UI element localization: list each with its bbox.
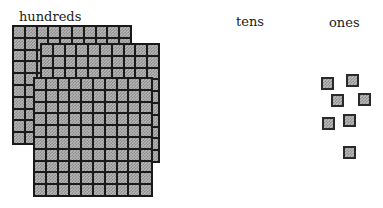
- flat-cell: [59, 103, 69, 113]
- flat-cell: [129, 114, 139, 124]
- flat-cell: [35, 138, 45, 148]
- flat-cell: [129, 103, 139, 113]
- flat-cell: [14, 39, 24, 49]
- flat-cell: [129, 162, 139, 172]
- flat-cell: [35, 162, 45, 172]
- flat-cell: [82, 126, 92, 136]
- flat-cell: [35, 103, 45, 113]
- flat-cell: [70, 91, 80, 101]
- flat-cell: [70, 114, 80, 124]
- flat-cell: [148, 57, 158, 67]
- unit-cube: [331, 94, 344, 107]
- flat-cell: [35, 150, 45, 160]
- flat-cell: [94, 150, 104, 160]
- flat-cell: [141, 126, 151, 136]
- flat-cell: [59, 126, 69, 136]
- flat-cell: [14, 27, 24, 37]
- flat-cell: [85, 27, 95, 37]
- flat-cell: [61, 27, 71, 37]
- flat-cell: [106, 91, 116, 101]
- flat-cell: [70, 103, 80, 113]
- flat-cell: [70, 138, 80, 148]
- flat-cell: [141, 138, 151, 148]
- flat-cell: [66, 45, 76, 55]
- flat-cell: [70, 126, 80, 136]
- flat-cell: [82, 103, 92, 113]
- flat-cell: [38, 27, 48, 37]
- flat-cell: [141, 150, 151, 160]
- flat-cell: [26, 39, 36, 49]
- flat-cell: [118, 150, 128, 160]
- flat-cell: [141, 114, 151, 124]
- flat-cell: [106, 114, 116, 124]
- hundred-flat: [33, 77, 153, 197]
- flat-cell: [47, 185, 57, 195]
- flat-cell: [108, 27, 118, 37]
- flat-cell: [141, 79, 151, 89]
- flat-cell: [129, 126, 139, 136]
- flat-cell: [118, 138, 128, 148]
- flat-cell: [59, 114, 69, 124]
- flat-cell: [59, 162, 69, 172]
- flat-cell: [47, 79, 57, 89]
- flat-cell: [118, 185, 128, 195]
- flat-cell: [42, 45, 52, 55]
- flat-cell: [47, 103, 57, 113]
- flat-cell: [113, 45, 123, 55]
- flat-cell: [106, 173, 116, 183]
- flat-cell: [14, 74, 24, 84]
- flat-cell: [94, 114, 104, 124]
- flat-cell: [106, 185, 116, 195]
- unit-cube: [343, 146, 356, 159]
- flat-cell: [82, 173, 92, 183]
- flat-cell: [47, 114, 57, 124]
- flat-cell: [47, 91, 57, 101]
- flat-cell: [47, 126, 57, 136]
- flat-cell: [82, 91, 92, 101]
- flat-cell: [35, 185, 45, 195]
- flat-cell: [129, 91, 139, 101]
- flat-cell: [47, 138, 57, 148]
- flat-cell: [129, 173, 139, 183]
- flat-cell: [47, 150, 57, 160]
- flat-cell: [94, 91, 104, 101]
- flat-cell: [118, 114, 128, 124]
- flat-cell: [94, 126, 104, 136]
- flat-cell: [94, 173, 104, 183]
- flat-cell: [14, 110, 24, 120]
- flat-cell: [26, 27, 36, 37]
- tens-label: tens: [236, 15, 264, 28]
- flat-cell: [101, 45, 111, 55]
- flat-cell: [14, 86, 24, 96]
- flat-cell: [106, 162, 116, 172]
- flat-cell: [106, 126, 116, 136]
- flat-cell: [141, 185, 151, 195]
- flat-cell: [94, 103, 104, 113]
- unit-cube: [346, 74, 359, 87]
- unit-cube: [322, 117, 335, 130]
- flat-cell: [118, 79, 128, 89]
- flat-cell: [77, 45, 87, 55]
- flat-cell: [106, 138, 116, 148]
- flat-cell: [42, 57, 52, 67]
- flat-cell: [120, 27, 130, 37]
- flat-cell: [70, 150, 80, 160]
- flat-cell: [82, 79, 92, 89]
- flat-cell: [129, 79, 139, 89]
- flat-cell: [106, 103, 116, 113]
- flat-cell: [35, 79, 45, 89]
- ones-label: ones: [329, 16, 360, 29]
- flat-cell: [35, 126, 45, 136]
- flat-cell: [136, 45, 146, 55]
- flat-cell: [59, 91, 69, 101]
- flat-cell: [129, 185, 139, 195]
- flat-cell: [106, 150, 116, 160]
- flat-cell: [125, 45, 135, 55]
- flat-cell: [59, 138, 69, 148]
- flat-cell: [129, 138, 139, 148]
- flat-cell: [118, 91, 128, 101]
- flat-cell: [66, 57, 76, 67]
- flat-cell: [54, 57, 64, 67]
- flat-cell: [59, 173, 69, 183]
- flat-cell: [47, 162, 57, 172]
